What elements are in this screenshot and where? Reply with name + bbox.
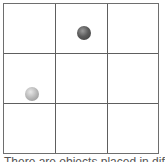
cell-1-1[interactable]	[56, 54, 107, 103]
caption-text: There are objects placed in different ce…	[4, 155, 165, 162]
cell-1-2[interactable]	[108, 54, 159, 103]
cell-0-2[interactable]	[108, 4, 159, 53]
cell-2-2[interactable]	[108, 104, 159, 153]
light-ball-piece[interactable]	[25, 87, 39, 101]
game-board	[3, 3, 159, 154]
dark-ball-piece[interactable]	[77, 26, 91, 40]
cell-0-0[interactable]	[4, 4, 55, 53]
cell-2-1[interactable]	[56, 104, 107, 153]
cell-2-0[interactable]	[4, 104, 55, 153]
